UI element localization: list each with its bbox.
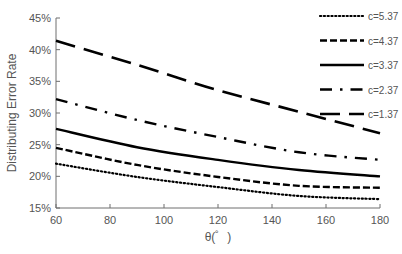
x-tick-label: 140 — [263, 214, 281, 226]
y-tick-label: 20% — [29, 170, 51, 182]
x-tick-label: 100 — [155, 214, 173, 226]
axes: 15%20%25%30%35%40%45%6080100120140160180 — [29, 12, 389, 226]
series-c-5-37 — [56, 164, 380, 199]
legend-label: c=5.37 — [368, 11, 399, 22]
y-tick-label: 45% — [29, 12, 51, 24]
series-c-1-37 — [56, 41, 380, 133]
series-c-4-37 — [56, 148, 380, 188]
legend-label: c=3.37 — [368, 60, 399, 71]
legend-label: c=1.37 — [368, 109, 399, 120]
x-tick-label: 180 — [371, 214, 389, 226]
y-tick-label: 15% — [29, 202, 51, 214]
y-tick-label: 30% — [29, 107, 51, 119]
x-axis-label: θ(゜) — [205, 230, 232, 244]
line-chart: 15%20%25%30%35%40%45%6080100120140160180… — [0, 0, 402, 254]
legend-label: c=4.37 — [368, 36, 399, 47]
legend: c=5.37c=4.37c=3.37c=2.37c=1.37 — [320, 11, 399, 120]
x-tick-label: 160 — [317, 214, 335, 226]
x-tick-label: 120 — [209, 214, 227, 226]
y-axis-label: Distributing Error Rate — [5, 53, 19, 172]
x-tick-label: 80 — [104, 214, 116, 226]
y-tick-label: 35% — [29, 75, 51, 87]
y-tick-label: 40% — [29, 44, 51, 56]
x-tick-label: 60 — [50, 214, 62, 226]
legend-label: c=2.37 — [368, 85, 399, 96]
y-tick-label: 25% — [29, 139, 51, 151]
series-c-2-37 — [56, 99, 380, 160]
series-c-3-37 — [56, 129, 380, 177]
